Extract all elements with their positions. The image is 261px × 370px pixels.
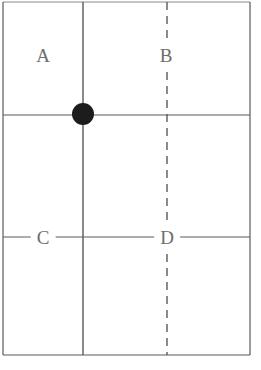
label-c: C: [31, 226, 56, 249]
filled-dot-marker: [72, 103, 94, 125]
label-a: A: [30, 44, 56, 67]
label-b: B: [154, 44, 179, 67]
label-d: D: [154, 226, 180, 249]
diagram-canvas: A B C D: [0, 0, 261, 370]
